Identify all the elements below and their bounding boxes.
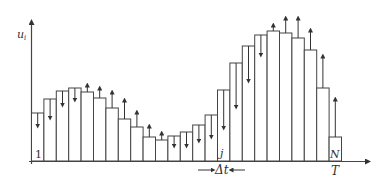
bar-21 <box>280 33 292 161</box>
bar-8 <box>118 119 130 161</box>
step-histogram-diagram: ui 1 j N T Δt <box>0 0 390 185</box>
x-end-label: T <box>331 164 340 178</box>
y-axis-label: ui <box>17 28 26 42</box>
first-bar-label: 1 <box>35 148 42 161</box>
bar-11 <box>156 140 168 161</box>
delta-t-label: Δt <box>214 163 229 177</box>
bar-5 <box>81 92 93 161</box>
bar-7 <box>106 108 118 161</box>
bar-23 <box>304 50 316 161</box>
bar-9 <box>131 127 143 161</box>
bar-6 <box>94 98 106 161</box>
last-bar-label: N <box>329 148 340 161</box>
bar-10 <box>143 137 155 161</box>
bar-24 <box>317 88 329 161</box>
bar-20 <box>267 31 279 161</box>
bar-22 <box>292 38 304 161</box>
